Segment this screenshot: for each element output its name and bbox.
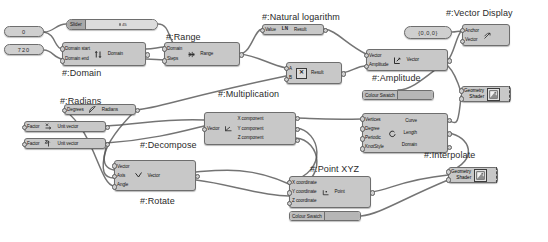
output-port[interactable]: Unit vector — [57, 141, 78, 146]
node-rotate[interactable]: VectorAxisAngleVector — [114, 160, 196, 191]
ln-icon: LN — [278, 25, 292, 34]
port-connector[interactable] — [60, 46, 65, 51]
port-connector[interactable] — [145, 52, 150, 57]
port-connector[interactable] — [162, 58, 167, 63]
output-port[interactable]: X component — [237, 116, 263, 121]
input-port[interactable]: Periodic — [365, 135, 381, 140]
output-port[interactable]: Z component — [238, 135, 264, 140]
shader-preview-icon — [474, 169, 487, 182]
node-multiplication[interactable]: AB✕Result — [286, 62, 342, 84]
port-connector[interactable] — [447, 131, 452, 136]
input-port[interactable]: KnotStyle — [365, 144, 384, 149]
input-ports: Factor — [25, 122, 41, 131]
node-unit-vector-x[interactable]: FactorUnit vector — [24, 121, 106, 132]
slider-track[interactable]: 45 — [86, 20, 157, 29]
port-connector[interactable] — [360, 136, 365, 141]
input-port[interactable]: Factor — [27, 124, 39, 129]
input-port[interactable]: Steps — [167, 56, 178, 61]
port-connector[interactable] — [60, 58, 65, 63]
input-port[interactable]: Z coordinate — [292, 198, 316, 203]
preview-geometry-shader-upper[interactable]: GeometryShader — [461, 86, 511, 102]
rotate-icon — [131, 161, 145, 190]
input-port[interactable]: Anchor — [465, 28, 479, 33]
input-port[interactable]: Value — [265, 27, 276, 32]
node-point-xyz[interactable]: X coordinateY coordinateZ coordinatePoin… — [289, 176, 371, 208]
input-port[interactable]: Degrees — [67, 107, 84, 112]
output-port[interactable]: Range — [200, 51, 213, 56]
input-port[interactable]: A — [289, 66, 292, 71]
input-port[interactable]: Domain — [167, 46, 182, 51]
slider-knob[interactable] — [119, 23, 122, 26]
port-connector[interactable] — [112, 184, 117, 189]
input-port[interactable]: Amplitude — [369, 62, 389, 67]
output-port[interactable]: Unit vector — [57, 124, 78, 129]
output-ports: Result — [309, 63, 325, 83]
output-port[interactable]: Domain — [108, 51, 123, 56]
port-connector[interactable] — [360, 146, 365, 151]
output-port[interactable]: Result — [311, 70, 323, 75]
colour-swatch-lower[interactable]: Colour Swatch — [289, 211, 361, 221]
node-interpolate[interactable]: VerticesDegreePeriodicKnotStyleCurveLeng… — [362, 113, 448, 153]
output-port[interactable]: Result — [294, 27, 306, 32]
output-port[interactable]: Y component — [238, 126, 264, 131]
output-port[interactable]: Vector — [147, 173, 159, 178]
input-port[interactable]: Degree — [365, 126, 379, 131]
node-domain[interactable]: Domain startDomain endDomain — [62, 42, 146, 66]
input-port[interactable]: Vector — [117, 164, 129, 169]
input-port[interactable]: Domain start — [65, 46, 90, 51]
port-connector[interactable] — [112, 163, 117, 168]
input-port[interactable]: Shader — [469, 94, 484, 100]
port-connector[interactable] — [370, 190, 375, 195]
node-amplitude[interactable]: VectorAmplitudeVector — [366, 49, 448, 71]
port-connector[interactable] — [459, 88, 464, 93]
colour-swatch-chip[interactable] — [325, 212, 360, 220]
input-port[interactable]: Shader — [456, 175, 471, 181]
port-connector[interactable] — [360, 126, 365, 131]
input-port[interactable]: Vector — [465, 37, 477, 42]
output-port[interactable]: Point — [335, 189, 345, 194]
input-port[interactable]: X coordinate — [292, 180, 317, 185]
input-port[interactable]: Y coordinate — [292, 189, 317, 194]
wire — [361, 180, 448, 216]
node-vector-display[interactable]: AnchorVector — [462, 24, 510, 46]
port-connector[interactable] — [239, 52, 244, 57]
preview-geometry-shader-lower[interactable]: GeometryShader — [448, 167, 498, 183]
caption-natural-log: #:Natural logarithm — [262, 12, 340, 22]
input-port[interactable]: B — [289, 75, 292, 80]
port-connector[interactable] — [162, 46, 167, 51]
port-connector[interactable] — [447, 58, 452, 63]
output-port[interactable]: Vector — [407, 57, 419, 62]
input-ports: Degrees — [65, 105, 86, 114]
input-port[interactable]: Axis — [117, 173, 125, 178]
port-connector[interactable] — [446, 177, 451, 182]
node-decompose[interactable]: VectorX componentY componentZ component — [204, 112, 296, 145]
number-param-0[interactable]: 0 — [4, 26, 44, 37]
input-port[interactable]: Angle — [117, 182, 128, 187]
preview-edge — [496, 167, 500, 183]
vector-param-origin[interactable]: {0,0,0} — [404, 26, 452, 39]
input-port[interactable]: Vertices — [365, 117, 381, 122]
input-port[interactable]: Vector — [369, 53, 381, 58]
port-connector[interactable] — [360, 116, 365, 121]
port-connector[interactable] — [446, 169, 451, 174]
colour-swatch-upper[interactable]: Colour Swatch — [362, 90, 434, 100]
slider-node[interactable]: Slider45 — [66, 19, 158, 30]
input-port[interactable]: Vector — [207, 126, 219, 131]
amplitude-icon — [391, 50, 405, 70]
output-port[interactable]: Domain — [402, 142, 417, 147]
slider-label: Slider — [67, 20, 86, 29]
colour-swatch-chip[interactable] — [398, 91, 433, 99]
node-unit-vector-z[interactable]: FactorUnit vector — [24, 138, 106, 149]
input-port[interactable]: Factor — [27, 141, 39, 146]
port-connector[interactable] — [341, 71, 346, 76]
node-natural-logarithm[interactable]: ValueLNResult — [262, 24, 324, 35]
input-port[interactable]: Domain end — [65, 56, 89, 61]
output-port[interactable]: Length — [404, 130, 417, 135]
output-port[interactable]: Curve — [405, 118, 417, 123]
port-connector[interactable] — [287, 190, 292, 195]
node-range[interactable]: DomainStepsRange — [164, 42, 240, 66]
port-connector[interactable] — [459, 96, 464, 101]
input-ports: Vector — [205, 113, 221, 144]
number-param-720[interactable]: 720 — [4, 44, 44, 55]
output-port[interactable]: Radians — [102, 107, 118, 112]
